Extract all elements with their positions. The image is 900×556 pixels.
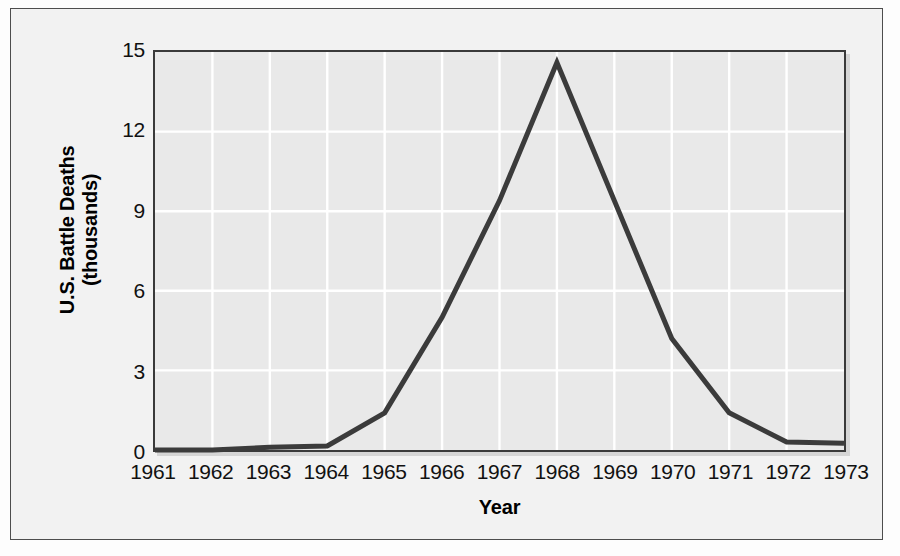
x-axis-title: Year xyxy=(153,496,846,519)
y-axis-title-line2: (thousands) xyxy=(79,100,102,360)
y-tick-label: 3 xyxy=(99,361,145,382)
series-polyline xyxy=(155,63,844,450)
plot-area xyxy=(153,50,846,452)
y-tick-label: 12 xyxy=(99,119,145,140)
y-axis-title: U.S. Battle Deaths (thousands) xyxy=(56,100,102,360)
y-axis-title-line1: U.S. Battle Deaths xyxy=(56,145,78,314)
y-tick-label: 6 xyxy=(99,280,145,301)
y-tick-label: 0 xyxy=(99,441,145,462)
y-tick-label: 9 xyxy=(99,200,145,221)
battle-deaths-line-series xyxy=(155,52,844,450)
y-tick-label: 15 xyxy=(99,39,145,60)
x-axis-tick-labels: 1961196219631964196519661967196819691970… xyxy=(153,461,846,491)
figure-frame: 15129630 1961196219631964196519661967196… xyxy=(10,8,883,540)
x-tick-label: 1973 xyxy=(811,461,881,482)
chart-figure: 15129630 1961196219631964196519661967196… xyxy=(0,0,900,556)
